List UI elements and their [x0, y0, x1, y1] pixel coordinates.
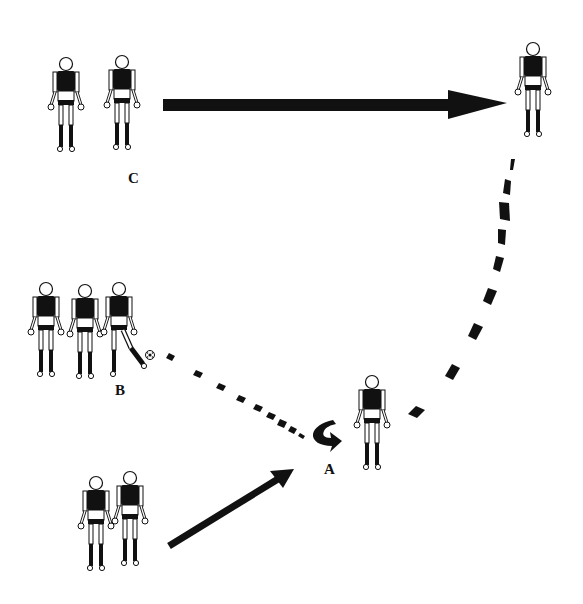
player-b3-kicking: [101, 283, 147, 377]
player-b1: [28, 283, 64, 377]
ball-icon: [146, 351, 155, 360]
player-b2: [67, 285, 103, 379]
player-c2: [104, 56, 140, 150]
group-bottom: [78, 472, 148, 571]
dashed-run-target-to-a: [408, 159, 515, 418]
player-a: [354, 376, 390, 470]
run-arrow-bottom-to-a: [169, 469, 294, 546]
label-b: B: [115, 382, 125, 398]
label-a: A: [324, 461, 335, 477]
dotted-pass-b-to-a: [166, 353, 305, 439]
player-bottom2: [112, 472, 148, 566]
player-c1: [48, 58, 84, 152]
turn-arrow-icon: [313, 420, 342, 452]
run-arrow-c-to-target: [163, 90, 507, 119]
group-a: A: [324, 376, 390, 478]
group-c: C: [48, 56, 140, 187]
group-b: B: [28, 283, 155, 399]
drill-diagram: C B A: [0, 0, 583, 604]
label-c: C: [128, 170, 139, 186]
player-bottom1: [78, 477, 114, 571]
player-target: [515, 43, 551, 137]
